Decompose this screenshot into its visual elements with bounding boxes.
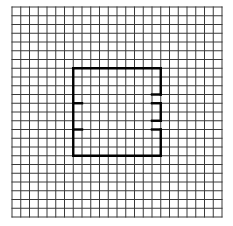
grid-diagram <box>0 0 233 226</box>
